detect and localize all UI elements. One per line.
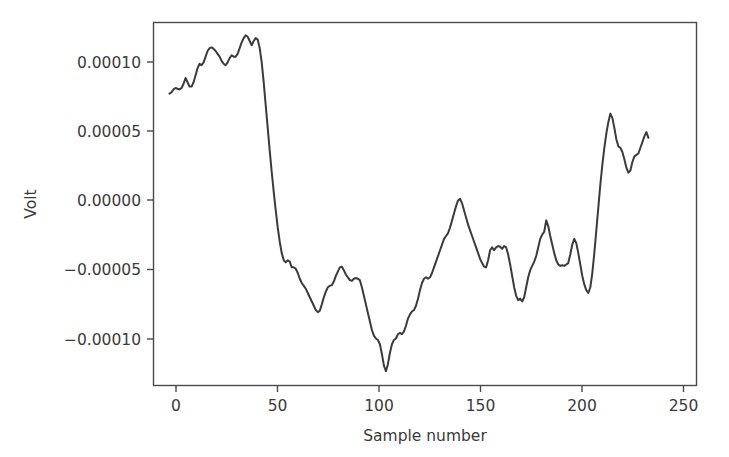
- x-tick-label-1: 50: [268, 397, 288, 415]
- y-tick-label-0: 0.00010: [77, 54, 141, 72]
- y-tick-label-3: −0.00005: [64, 261, 141, 279]
- x-tick-label-5: 250: [669, 397, 699, 415]
- y-axis-title: Volt: [22, 189, 40, 218]
- x-axis-title: Sample number: [363, 427, 487, 445]
- x-tick-label-0: 0: [171, 397, 181, 415]
- chart-figure: 0.00010 0.00005 0.00000 −0.00005 −0.0001…: [0, 0, 729, 457]
- x-tick-label-2: 100: [364, 397, 394, 415]
- y-tick-label-1: 0.00005: [77, 123, 141, 141]
- x-tick-label-3: 150: [466, 397, 496, 415]
- x-tick-label-4: 200: [567, 397, 597, 415]
- y-tick-label-4: −0.00010: [64, 331, 141, 349]
- y-tick-label-2: 0.00000: [77, 192, 141, 210]
- volt-line-chart: 0.00010 0.00005 0.00000 −0.00005 −0.0001…: [0, 0, 729, 457]
